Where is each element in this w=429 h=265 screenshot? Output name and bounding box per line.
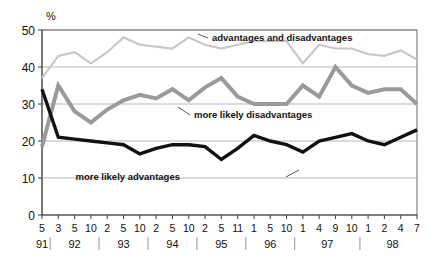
series-line-more-likely-advantages — [42, 89, 417, 159]
x-axis-tick-label: 5 — [121, 222, 127, 234]
y-axis-tick-label: 40 — [22, 61, 36, 75]
x-axis-year-label: 92 — [68, 238, 80, 250]
series-annotation-label: more likely advantages — [75, 171, 180, 182]
series-annotation-label: advantages and disadvantages — [212, 32, 352, 43]
x-axis-tick-label: 5 — [39, 222, 45, 234]
x-axis-tick-label: 10 — [85, 222, 97, 234]
x-axis-year-label: 93 — [117, 238, 129, 250]
x-axis-tick-label: 2 — [381, 222, 387, 234]
chart-container: 50403020100 advantages and disadvantages… — [0, 0, 429, 265]
x-axis-tick-label: 10 — [281, 222, 293, 234]
x-axis-tick-label: 1 — [251, 222, 257, 234]
series-annotation-label: more likely disadvantages — [194, 109, 312, 120]
annotation-leader-line — [178, 107, 190, 115]
x-axis-tick-label: 7 — [414, 222, 420, 234]
x-axis-year-label: 91 — [36, 238, 48, 250]
x-axis-year-label: 97 — [321, 238, 333, 250]
annotation-leader-line — [198, 34, 208, 38]
x-axis-tick-label: 2 — [202, 222, 208, 234]
x-axis-tick-label: 4 — [316, 222, 322, 234]
y-axis-tick-label: 30 — [22, 98, 36, 112]
annotation-leader-line — [286, 170, 299, 177]
x-axis-tick-label: 10 — [183, 222, 195, 234]
x-axis-tick-label: 9 — [333, 222, 339, 234]
x-axis-tick-label: 2 — [104, 222, 110, 234]
x-axis-year-label: 95 — [215, 238, 227, 250]
x-axis-tick-label: 1 — [365, 222, 371, 234]
x-axis-year-label: 98 — [386, 238, 398, 250]
y-axis-unit-label: % — [46, 10, 56, 22]
x-axis-tick-label: 4 — [398, 222, 404, 234]
x-axis-tick-label: 5 — [267, 222, 273, 234]
y-axis-tick-label: 20 — [22, 135, 36, 149]
x-axis-tick-label: 2 — [153, 222, 159, 234]
x-axis-year-label: 94 — [166, 238, 178, 250]
x-axis-year-label: 96 — [264, 238, 276, 250]
y-axis-tick-label: 0 — [28, 209, 35, 223]
y-axis-tick-label: 10 — [22, 172, 36, 186]
x-axis-tick-label: 11 — [232, 222, 243, 234]
series-line-advantages-and-disadvantages — [42, 37, 417, 78]
x-axis-tick-label: 10 — [134, 222, 146, 234]
x-axis-tick-label: 10 — [346, 222, 358, 234]
x-axis-tick-label: 5 — [218, 222, 224, 234]
y-axis-group: 50403020100 — [22, 24, 42, 223]
y-axis-tick-label: 50 — [22, 24, 36, 38]
line-chart: 50403020100 advantages and disadvantages… — [0, 0, 429, 265]
x-axis-tick-label: 1 — [300, 222, 306, 234]
x-axis-tick-label: 3 — [55, 222, 61, 234]
x-axis-tick-label: 5 — [170, 222, 176, 234]
x-axis-group: 5351025102510251115101491012479192939495… — [36, 215, 420, 250]
series-line-more-likely-disadvantages — [42, 67, 417, 147]
x-axis-tick-label: 5 — [72, 222, 78, 234]
